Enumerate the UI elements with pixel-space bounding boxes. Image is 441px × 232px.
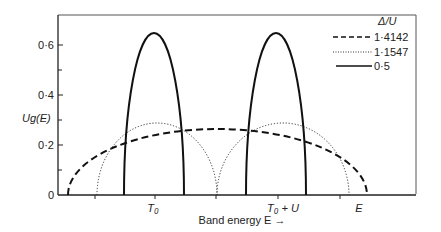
legend-label-solid: 0·5 bbox=[374, 60, 390, 72]
series-solid-0-5-band1 bbox=[124, 33, 184, 195]
ytick-label: 0·2 bbox=[38, 139, 54, 151]
xtick-label-t0-plus-u: T₀ + U bbox=[267, 202, 299, 214]
ytick-label: 0 bbox=[48, 189, 54, 201]
ytick-label: 0·4 bbox=[38, 89, 54, 101]
series-solid-0-5-band2 bbox=[246, 33, 306, 195]
legend-title: Δ/U bbox=[377, 15, 396, 27]
xtick-label-t0: T₀ bbox=[147, 202, 159, 214]
legend-label-dashed: 1·4142 bbox=[374, 31, 408, 43]
density-of-states-chart: 0·6 0·4 0·2 0 Ug(E) T₀ T₀ + U E Band ene… bbox=[0, 0, 441, 232]
xtick-label-e: E bbox=[355, 202, 363, 214]
ytick-label: 0·6 bbox=[38, 39, 54, 51]
plot-frame bbox=[58, 15, 416, 194]
x-axis-label: Band energy E → bbox=[199, 214, 286, 226]
series-dotted-1-1547-band2 bbox=[217, 123, 349, 195]
legend: Δ/U 1·4142 1·1547 0·5 bbox=[333, 15, 408, 72]
y-ticks bbox=[58, 45, 63, 170]
legend-label-dotted: 1·1547 bbox=[374, 46, 408, 58]
y-axis-label: Ug(E) bbox=[22, 112, 51, 124]
